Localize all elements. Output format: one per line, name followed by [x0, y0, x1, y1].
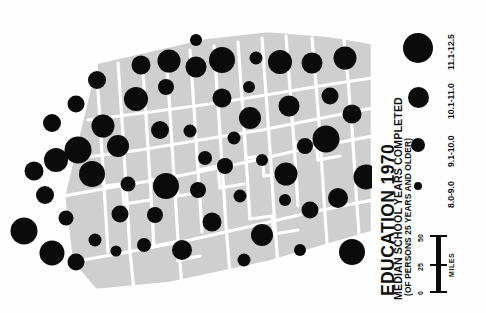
map-symbol[interactable]	[137, 238, 151, 252]
legend-label: 8.0-9.0	[446, 181, 456, 208]
map-symbol[interactable]	[250, 52, 263, 65]
map-svg	[0, 0, 372, 313]
map-symbol[interactable]	[79, 161, 105, 187]
map-symbol[interactable]	[11, 218, 38, 245]
map-symbol[interactable]	[294, 244, 306, 256]
legend-symbol-circle	[408, 87, 429, 108]
map-symbol[interactable]	[328, 188, 348, 208]
map-symbol[interactable]	[65, 137, 92, 164]
map-symbol[interactable]	[203, 213, 222, 232]
map-symbol[interactable]	[92, 115, 115, 138]
map-symbol[interactable]	[147, 207, 163, 223]
map-symbol[interactable]	[213, 89, 232, 108]
map-symbol[interactable]	[256, 154, 268, 166]
legend-label: 10.1-11.0	[446, 83, 456, 119]
legend-label: 9.1-10.0	[446, 135, 456, 167]
scale-tick-25	[430, 264, 447, 266]
map-symbol[interactable]	[302, 53, 323, 74]
map-symbol[interactable]	[43, 114, 61, 132]
map-symbol[interactable]	[268, 50, 292, 74]
map-symbol[interactable]	[153, 173, 179, 199]
map-symbol[interactable]	[25, 162, 44, 181]
map-qualifier: (OF PERSONS 25 YEARS AND OLDER)	[403, 138, 413, 296]
map-symbol[interactable]	[322, 88, 339, 105]
map-symbol[interactable]	[40, 241, 65, 266]
map-symbol[interactable]	[198, 151, 212, 165]
legend-symbol-circle	[411, 138, 425, 152]
map-symbol[interactable]	[313, 126, 340, 153]
map-symbol[interactable]	[186, 57, 207, 78]
map-symbol[interactable]	[132, 56, 151, 75]
legend-panel: EDUCATION 1970 MEDIAN SCHOOL YEARS COMPL…	[356, 0, 486, 313]
map-symbol[interactable]	[68, 254, 85, 271]
map-symbol[interactable]	[228, 132, 241, 145]
map-symbol[interactable]	[158, 79, 174, 95]
map-symbol[interactable]	[302, 202, 319, 219]
scale-bar: 0 25 50 MILES	[416, 233, 482, 307]
scale-unit-label: MILES	[448, 253, 455, 277]
legend-symbol-circle	[403, 33, 433, 63]
map-symbol[interactable]	[107, 135, 129, 157]
map-symbol[interactable]	[190, 182, 206, 198]
map-symbol[interactable]	[124, 87, 148, 111]
map-symbol[interactable]	[190, 34, 202, 46]
map-symbol[interactable]	[111, 246, 122, 257]
map-symbol[interactable]	[297, 138, 313, 154]
map-symbol[interactable]	[151, 121, 169, 139]
map-symbol[interactable]	[234, 190, 247, 203]
map-symbol[interactable]	[121, 177, 136, 192]
scale-tick-0	[430, 291, 447, 293]
scale-tick-50	[430, 235, 447, 237]
map-symbol[interactable]	[238, 254, 251, 267]
map-page: EDUCATION 1970 MEDIAN SCHOOL YEARS COMPL…	[0, 0, 486, 313]
map-symbol[interactable]	[251, 224, 273, 246]
map-symbol[interactable]	[209, 47, 235, 73]
map-symbol[interactable]	[184, 125, 197, 138]
legend-symbol-circle	[414, 182, 422, 190]
map-symbol[interactable]	[334, 47, 357, 70]
map-symbol[interactable]	[68, 96, 85, 113]
map-symbol[interactable]	[59, 211, 74, 226]
map-symbol[interactable]	[243, 81, 255, 93]
map-symbol[interactable]	[275, 163, 298, 186]
map-symbol[interactable]	[112, 206, 129, 223]
map-symbol[interactable]	[239, 107, 261, 129]
map-symbol[interactable]	[44, 148, 68, 172]
map-canvas[interactable]	[0, 0, 372, 313]
scale-label-50: 50	[417, 234, 424, 242]
scale-label-0: 0	[417, 291, 424, 295]
map-symbol[interactable]	[158, 50, 181, 73]
map-symbol[interactable]	[89, 234, 102, 247]
map-symbol[interactable]	[36, 186, 54, 204]
map-symbol[interactable]	[88, 71, 106, 89]
map-symbol[interactable]	[279, 96, 300, 117]
map-symbol[interactable]	[172, 240, 192, 260]
scale-label-25: 25	[417, 263, 424, 271]
map-symbol[interactable]	[217, 158, 233, 174]
legend-label: 11.1-12.5	[446, 34, 456, 70]
map-symbol[interactable]	[279, 194, 291, 206]
